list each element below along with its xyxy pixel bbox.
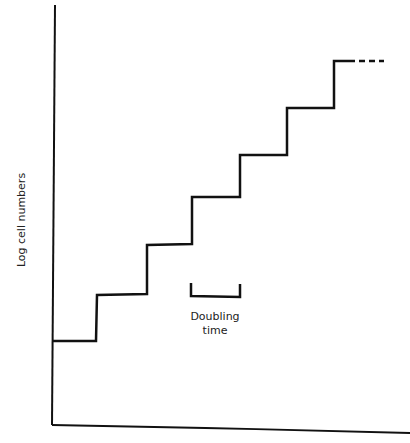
doubling-time-label-line2: time xyxy=(190,324,239,338)
x-axis xyxy=(52,425,410,433)
doubling-time-bracket xyxy=(191,283,240,297)
doubling-time-label: Doubling time xyxy=(190,310,239,338)
doubling-time-label-line1: Doubling xyxy=(190,310,239,324)
y-axis-label: Log cell numbers xyxy=(15,173,28,267)
growth-step-line xyxy=(52,61,355,341)
y-axis xyxy=(52,5,55,425)
step-chart xyxy=(0,0,410,443)
